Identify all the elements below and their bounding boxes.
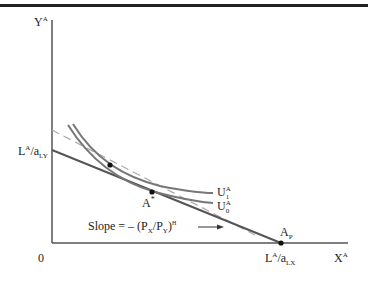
slope-label: Slope = – (PX/PY)H (88, 219, 177, 235)
point-a-star (149, 189, 154, 194)
y-axis-label: YA (34, 15, 48, 29)
x-intercept-label: LA/aLX (265, 251, 295, 267)
ap-label: AP (280, 225, 293, 241)
point-ap (278, 240, 283, 245)
point-consumption (107, 162, 112, 167)
a-star-label: A* (142, 195, 155, 210)
origin-label: 0 (38, 251, 44, 265)
u0-label: UA0 (217, 199, 231, 215)
y-intercept-label: LA/aLY (18, 144, 48, 160)
x-axis-label: XA (334, 251, 348, 265)
arrow-head-icon (217, 225, 224, 230)
ppf-diagram: YA XA 0 LA/aLY LA/aLX A* AP UA1 UA0 Slop… (0, 0, 368, 281)
